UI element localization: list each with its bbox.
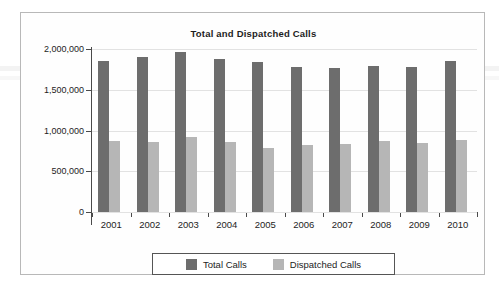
y-axis-tick-label: 0 (22, 207, 84, 217)
x-axis-tick (246, 213, 247, 217)
chart-page: Total and Dispatched Calls 0500,0001,000… (0, 0, 499, 288)
x-axis-tick (439, 213, 440, 217)
legend-item: Dispatched Calls (273, 259, 361, 270)
x-axis-tick-label: 2004 (207, 219, 247, 230)
x-axis-tick-label: 2005 (245, 219, 285, 230)
gridline (92, 90, 477, 91)
legend-swatch-dispatched-calls (273, 259, 284, 270)
x-axis-tick-label: 2001 (91, 219, 131, 230)
x-axis-tick (92, 213, 93, 217)
bar-total-calls (137, 57, 148, 212)
bar-dispatched-calls (379, 141, 390, 212)
x-axis-tick (400, 213, 401, 217)
bar-total-calls (291, 67, 302, 212)
bar-dispatched-calls (302, 145, 313, 212)
y-axis-tick-label: 1,000,000 (22, 126, 84, 136)
y-axis-tick (86, 90, 92, 91)
y-axis-tick-label: 500,000 (22, 166, 84, 176)
bar-dispatched-calls (225, 142, 236, 212)
x-axis-tick-label: 2002 (130, 219, 170, 230)
bar-dispatched-calls (417, 143, 428, 212)
y-axis-tick-label: 2,000,000 (22, 44, 84, 54)
bar-total-calls (406, 67, 417, 212)
bar-dispatched-calls (263, 148, 274, 212)
bar-total-calls (445, 61, 456, 212)
bar-dispatched-calls (186, 137, 197, 212)
plot-area (92, 49, 477, 212)
x-axis-tick (323, 213, 324, 217)
chart-legend: Total Calls Dispatched Calls (152, 253, 395, 275)
bar-total-calls (329, 68, 340, 212)
chart-frame: Total and Dispatched Calls 0500,0001,000… (20, 12, 485, 275)
bar-dispatched-calls (340, 144, 351, 212)
x-axis-tick-label: 2008 (361, 219, 401, 230)
bar-total-calls (98, 61, 109, 212)
legend-label: Dispatched Calls (290, 259, 361, 270)
legend-item: Total Calls (186, 259, 247, 270)
bar-dispatched-calls (148, 142, 159, 212)
x-axis-tick (477, 213, 478, 217)
bar-total-calls (214, 59, 225, 212)
bar-total-calls (252, 62, 263, 212)
y-axis-tick-label: 1,500,000 (22, 85, 84, 95)
bar-dispatched-calls (109, 141, 120, 212)
y-axis-tick (86, 49, 92, 50)
y-axis-tick (86, 171, 92, 172)
x-axis-tick (131, 213, 132, 217)
bar-dispatched-calls (456, 140, 467, 212)
x-axis-tick (362, 213, 363, 217)
legend-label: Total Calls (203, 259, 247, 270)
legend-swatch-total-calls (186, 259, 197, 270)
x-axis-tick (208, 213, 209, 217)
x-axis-tick (285, 213, 286, 217)
chart-title: Total and Dispatched Calls (21, 28, 486, 39)
y-axis-labels: 0500,0001,000,0001,500,0002,000,000 (21, 13, 84, 276)
x-axis-tick-label: 2007 (322, 219, 362, 230)
gridline (92, 131, 477, 132)
y-axis-tick (86, 131, 92, 132)
x-axis-tick-label: 2010 (438, 219, 478, 230)
bar-total-calls (175, 52, 186, 212)
x-axis-tick-label: 2006 (284, 219, 324, 230)
x-axis-tick (169, 213, 170, 217)
gridline (92, 49, 477, 50)
bar-total-calls (368, 66, 379, 212)
x-axis-tick-label: 2003 (168, 219, 208, 230)
x-axis-tick-label: 2009 (399, 219, 439, 230)
